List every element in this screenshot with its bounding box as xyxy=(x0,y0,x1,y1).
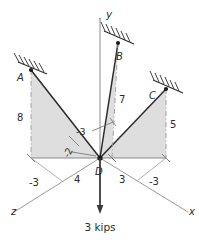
label-dim-B-height: 7 xyxy=(119,94,125,105)
load-arrow-head xyxy=(97,205,104,214)
axis-z xyxy=(14,158,100,212)
label-dim-C-height: 5 xyxy=(170,119,176,130)
label-axis-z: z xyxy=(10,206,17,217)
label-dim-x-run: 3 xyxy=(119,174,125,185)
label-node-C: C xyxy=(149,90,156,101)
label-axis-x: x xyxy=(188,206,195,217)
statics-figure: y x z A B C D 8 7 5 -3 4 3 -3 -3 -2 3 ki… xyxy=(0,0,199,242)
label-load-3kips: 3 kips xyxy=(84,221,115,233)
label-dim-x-neg-right: -3 xyxy=(149,176,159,187)
label-dim-z-neg-left: -3 xyxy=(29,177,39,188)
axis-x xyxy=(100,158,188,212)
label-node-D: D xyxy=(95,166,103,177)
shaded-faces xyxy=(31,43,166,158)
label-dim-z-run: 4 xyxy=(74,174,80,185)
label-dim-A-height: 8 xyxy=(17,112,23,123)
label-dim-center-upper: -3 xyxy=(76,126,85,137)
node-C-dot xyxy=(164,87,168,91)
support-anchor-B xyxy=(101,22,134,45)
label-node-B: B xyxy=(116,51,123,62)
label-node-A: A xyxy=(16,72,24,83)
figure-canvas: y x z A B C D 8 7 5 -3 4 3 -3 -3 -2 3 ki… xyxy=(0,0,199,242)
label-axis-y: y xyxy=(105,8,113,20)
support-C-baseline xyxy=(153,80,183,93)
node-A-dot xyxy=(29,68,33,72)
node-B-dot xyxy=(116,41,120,45)
support-anchor-A xyxy=(14,53,47,74)
